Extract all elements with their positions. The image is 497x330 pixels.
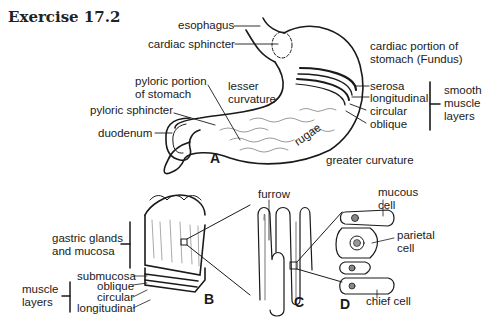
panel-d-cells [336, 210, 394, 294]
label-greater-curvature: greater curvature [326, 154, 414, 167]
panel-letter-d: D [340, 296, 350, 312]
panel-letter-b: B [204, 291, 214, 307]
label-cardiac-portion-line2: stomach (Fundus) [370, 53, 463, 66]
label-muscle-layers-line1: muscle [22, 283, 58, 296]
panel-letter-a: A [210, 150, 220, 166]
label-mucous-cell-line2: cell [378, 199, 395, 212]
label-esophagus: esophagus [178, 19, 234, 32]
label-longitudinal-a: longitudinal [370, 92, 428, 105]
label-pyloric-portion-line2: of stomach [135, 88, 191, 101]
label-lesser-curvature-line2: curvature [228, 93, 276, 106]
label-cardiac-sphincter: cardiac sphincter [148, 38, 235, 51]
label-furrow: furrow [258, 188, 290, 201]
panel-letter-c: C [294, 294, 304, 310]
label-muscle-layers-line2: layers [22, 296, 53, 309]
label-smooth-muscle-line3: layers [444, 110, 475, 123]
label-chief-cell: chief cell [366, 295, 411, 308]
label-circular-a: circular [370, 105, 407, 118]
panel-b-tissue-block [145, 195, 205, 292]
label-gastric-glands-line2: and mucosa [52, 245, 115, 258]
label-oblique-a: oblique [370, 118, 407, 131]
label-cardiac-portion-line1: cardiac portion of [370, 40, 458, 53]
label-smooth-muscle-line1: smooth [444, 84, 482, 97]
label-lesser-curvature-line1: lesser [228, 80, 259, 93]
label-mucous-cell-line1: mucous [378, 186, 418, 199]
label-parietal-cell-line2: cell [397, 242, 414, 255]
label-gastric-glands-line1: gastric glands [52, 232, 123, 245]
esophagus-shape [263, 18, 284, 33]
label-pyloric-sphincter: pyloric sphincter [90, 104, 173, 117]
label-pyloric-portion-line1: pyloric portion [135, 75, 207, 88]
label-longitudinal-b: longitudinal [77, 302, 135, 315]
label-duodenum: duodenum [98, 127, 152, 140]
label-smooth-muscle-line2: muscle [444, 97, 480, 110]
label-parietal-cell-line1: parietal [397, 229, 435, 242]
